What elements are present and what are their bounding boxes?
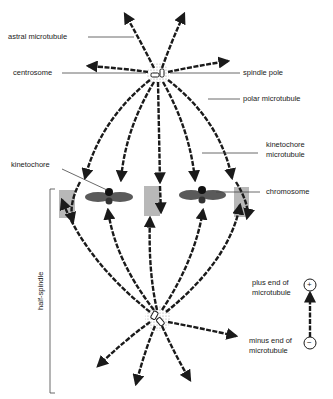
- label-polar-microtubule: polar microtubule: [243, 94, 301, 103]
- chromosome-side-center: [144, 186, 160, 216]
- label-plus-end-line2: microtubule: [252, 288, 291, 297]
- label-kinetochore-microtubule-line2: microtubule: [266, 150, 305, 159]
- label-astral-microtubule: astral microtubule: [8, 32, 67, 41]
- plus-symbol: +: [307, 280, 312, 289]
- minus-symbol: −: [307, 338, 312, 347]
- label-spindle-pole: spindle pole: [243, 68, 283, 77]
- label-minus-end-line2: microtubule: [249, 346, 288, 355]
- chromosome-right: [179, 186, 226, 204]
- label-kinetochore: kinetochore: [11, 160, 50, 169]
- label-half-spindle: half-spindle: [36, 272, 45, 310]
- label-plus-end-line1: plus end of: [252, 278, 289, 287]
- label-minus-end-line1: minus end of: [249, 336, 292, 345]
- label-centrosome: centrosome: [13, 68, 52, 77]
- label-chromosome: chromosome: [266, 187, 309, 196]
- chromosome-left: [85, 188, 133, 205]
- label-kinetochore-microtubule-line1: kinetochore: [266, 140, 305, 149]
